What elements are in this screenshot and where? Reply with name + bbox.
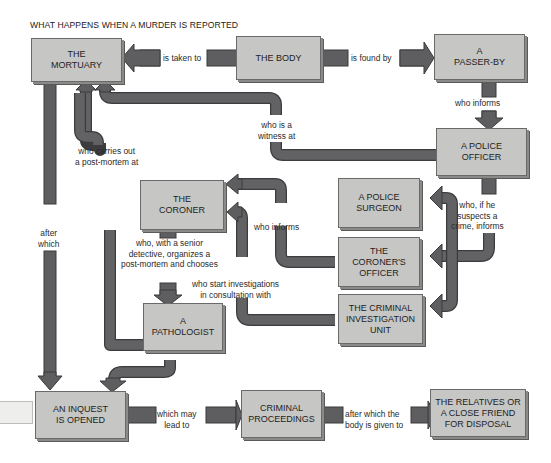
node-mortuary[interactable]: THE MORTUARY: [31, 38, 122, 82]
label-is-taken-to: is taken to: [163, 53, 201, 64]
label-who-start-investigations: who start investigations in consultation…: [192, 279, 279, 300]
label-after-which-the-body: after which the body is given to: [345, 409, 403, 430]
node-criminal-proceedings[interactable]: CRIMINAL PROCEEDINGS: [241, 390, 322, 438]
label-after-which: after which: [38, 228, 59, 249]
node-police-officer[interactable]: A POLICE OFFICER: [436, 128, 527, 176]
node-coroner[interactable]: THE CORONER: [140, 180, 224, 230]
node-criminal-investigation-unit[interactable]: THE CRIMINAL INVESTIGATION UNIT: [338, 294, 423, 344]
node-the-body[interactable]: THE BODY: [236, 36, 321, 80]
label-which-may-lead-to: which may lead to: [157, 409, 197, 430]
node-police-surgeon[interactable]: A POLICE SURGEON: [338, 178, 420, 228]
arrow-pathologist-to-inquest: [100, 360, 170, 392]
label-who-informs-1: who informs: [455, 98, 500, 109]
node-inquest[interactable]: AN INQUEST IS OPENED: [35, 391, 126, 439]
arrow-who-if-he-suspects: [430, 176, 496, 318]
label-who-informs-2: who informs: [254, 222, 299, 233]
node-passer-by[interactable]: A PASSER-BY: [434, 34, 525, 80]
node-pathologist[interactable]: A PATHOLOGIST: [143, 303, 223, 351]
label-who-with-a-senior: who, with a senior detective, organizes …: [121, 238, 218, 270]
label-who-carries-out: who carries out a post-mortem at: [75, 146, 138, 167]
left-edge-bar: [0, 401, 33, 424]
arrow-who-carries-out: [76, 80, 150, 345]
label-is-found-by: is found by: [351, 53, 392, 64]
arrow-who-is-a-witness-at: [95, 80, 440, 155]
node-coroners-officer[interactable]: THE CORONER'S OFFICER: [338, 237, 420, 287]
label-who-is-a-witness-at: who is a witness at: [258, 120, 295, 141]
label-who-if-he-suspects: who, if he suspects a crime, informs: [451, 200, 504, 232]
node-relatives[interactable]: THE RELATIVES OR A CLOSE FRIEND FOR DISP…: [430, 389, 526, 437]
